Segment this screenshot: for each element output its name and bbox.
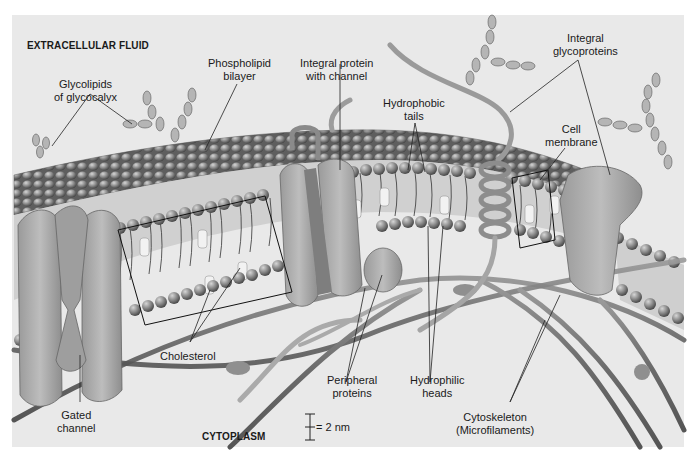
label-phospholipid-bilayer: Phospholipidbilayer — [208, 57, 271, 83]
label-peripheral-proteins: Peripheralproteins — [327, 374, 377, 400]
label-cytoskeleton: Cytoskeleton(Microfilaments) — [456, 411, 534, 437]
cell-membrane-diagram: EXTRACELLULAR FLUID CYTOPLASM Glycolipid… — [0, 0, 698, 462]
label-integral-glycoproteins: Integralglycoproteins — [553, 32, 618, 58]
label-cholesterol: Cholesterol — [160, 350, 216, 363]
label-hydrophobic-tails: Hydrophobictails — [383, 97, 445, 123]
filament-junction — [226, 361, 250, 375]
scale-bar — [305, 414, 315, 440]
label-cell-membrane: Cellmembrane — [545, 123, 598, 149]
label-glycolipids: Glycolipidsof glycocalyx — [54, 78, 117, 104]
label-hydrophilic-heads: Hydrophilicheads — [410, 374, 464, 400]
label-integral-protein-channel: Integral proteinwith channel — [300, 57, 373, 83]
filament-junction — [634, 364, 650, 380]
right-membrane-segment — [612, 232, 684, 330]
region-label-extracellular: EXTRACELLULAR FLUID — [27, 40, 149, 51]
gated-channel-protein — [18, 206, 122, 406]
label-gated-channel: Gatedchannel — [57, 409, 96, 435]
peripheral-protein — [364, 248, 402, 292]
scale-bar-label: = 2 nm — [316, 421, 350, 434]
region-label-cytoplasm: CYTOPLASM — [202, 431, 266, 442]
